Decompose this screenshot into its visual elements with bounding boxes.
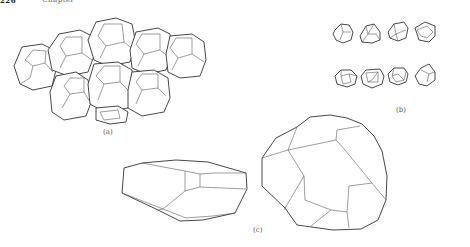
small-cell — [361, 69, 384, 88]
foam-cell — [96, 106, 128, 124]
panel-c-label: (c) — [253, 226, 262, 234]
panel-c-round-cell — [262, 115, 387, 230]
foam-cell — [48, 30, 94, 76]
panel-a-foam-cluster — [14, 18, 206, 124]
small-cell — [360, 24, 380, 43]
small-cell — [388, 68, 408, 85]
foam-cell — [130, 28, 172, 74]
foam-cell — [166, 34, 206, 78]
small-cell — [335, 70, 357, 87]
foam-cell — [88, 18, 136, 66]
foam-cell — [88, 62, 134, 112]
small-cell — [415, 22, 435, 42]
panel-b-label: (b) — [396, 106, 406, 114]
small-cell — [415, 64, 435, 86]
foam-cell — [128, 70, 170, 116]
panel-b-cells — [333, 22, 435, 88]
figure-canvas — [0, 0, 470, 247]
panel-a-label: (a) — [103, 128, 113, 136]
foam-cell — [50, 72, 92, 120]
small-cell — [388, 22, 408, 41]
small-cell — [333, 24, 353, 43]
panel-c-flat-cell — [122, 160, 247, 221]
